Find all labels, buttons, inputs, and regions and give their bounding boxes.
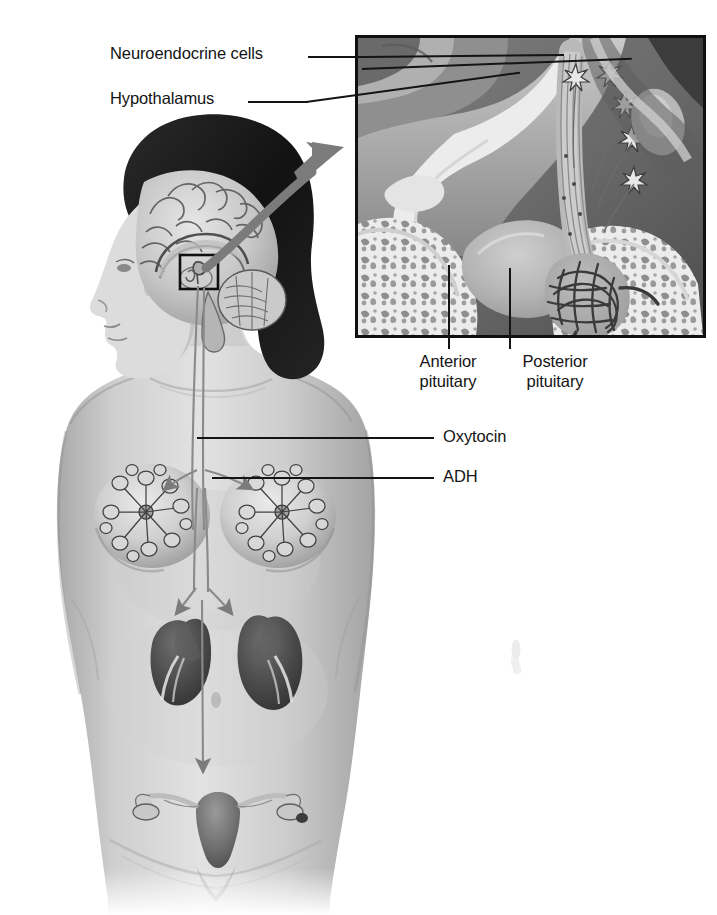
label-hypothalamus: Hypothalamus	[110, 89, 214, 108]
label-adh: ADH	[443, 467, 478, 486]
label-posterior-pituitary: Posterior pituitary	[503, 352, 607, 391]
leader-anterior-pituitary	[448, 265, 450, 349]
label-posterior-pituitary-line2: pituitary	[527, 372, 584, 390]
label-anterior-pituitary: Anterior pituitary	[398, 352, 498, 391]
label-posterior-pituitary-line1: Posterior	[522, 352, 587, 370]
label-oxytocin: Oxytocin	[443, 427, 506, 446]
leader-hypothalamus	[248, 101, 308, 103]
label-anterior-pituitary-line1: Anterior	[420, 352, 477, 370]
pituitary-inset-illustration	[358, 38, 703, 335]
label-anterior-pituitary-line2: pituitary	[420, 372, 477, 390]
scan-artifact	[505, 640, 527, 674]
leader-adh	[212, 477, 434, 479]
leader-posterior-pituitary	[509, 268, 511, 349]
leader-oxytocin	[197, 437, 434, 439]
figure-canvas: Neuroendocrine cells Hypothalamus Anteri…	[0, 0, 717, 915]
cerebellum	[218, 270, 286, 330]
leader-neuroendocrine-cells	[308, 56, 366, 58]
head-and-brain	[90, 114, 324, 379]
pituitary-inset-panel	[355, 35, 706, 338]
label-neuroendocrine-cells: Neuroendocrine cells	[110, 44, 263, 63]
